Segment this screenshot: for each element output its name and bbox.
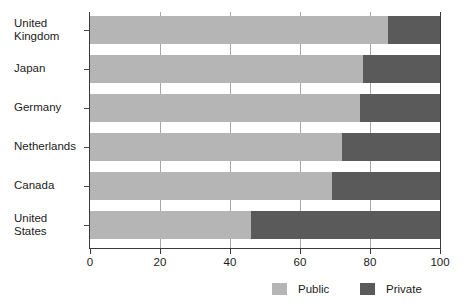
bar-segment-private — [388, 16, 441, 44]
category-label-netherlands: Netherlands — [14, 140, 82, 153]
bar-row-united-kingdom — [90, 16, 440, 44]
bar-segment-public — [90, 133, 342, 161]
bar-row-canada — [90, 172, 440, 200]
x-tick-80 — [370, 249, 371, 254]
bar-segment-private — [360, 94, 441, 122]
x-tick-40 — [230, 249, 231, 254]
bar-row-japan — [90, 55, 440, 83]
plot-right-border — [440, 12, 441, 249]
category-label-canada: Canada — [14, 179, 82, 192]
bar-segment-public — [90, 172, 332, 200]
category-label-united-states: United States — [14, 212, 82, 237]
bar-segment-public — [90, 94, 360, 122]
x-tick-0 — [90, 249, 91, 254]
bar-segment-public — [90, 55, 363, 83]
category-label-germany: Germany — [14, 101, 82, 114]
plot-area — [90, 12, 440, 248]
stacked-bar-chart: United Kingdom Japan Germany Netherlands… — [0, 0, 467, 307]
x-axis-label-0: 0 — [70, 256, 110, 268]
x-axis-label-100: 100 — [420, 256, 460, 268]
legend-item-private[interactable]: Private — [360, 281, 422, 297]
x-tick-100 — [440, 249, 441, 254]
bar-segment-private — [363, 55, 440, 83]
x-axis-label-20: 20 — [140, 256, 180, 268]
legend-label-private: Private — [386, 283, 422, 295]
category-label-united-kingdom: United Kingdom — [14, 17, 82, 42]
x-axis-line — [89, 248, 441, 249]
bar-segment-private — [342, 133, 440, 161]
legend-label-public: Public — [298, 283, 329, 295]
x-tick-60 — [300, 249, 301, 254]
x-axis-label-40: 40 — [210, 256, 250, 268]
legend-swatch-private-icon — [360, 283, 375, 295]
x-axis-label-80: 80 — [350, 256, 390, 268]
bar-row-netherlands — [90, 133, 440, 161]
category-label-japan: Japan — [14, 62, 82, 75]
bar-segment-private — [332, 172, 441, 200]
bar-segment-private — [251, 211, 440, 239]
x-axis-label-60: 60 — [280, 256, 320, 268]
bar-row-united-states — [90, 211, 440, 239]
bar-segment-public — [90, 211, 251, 239]
bar-segment-public — [90, 16, 388, 44]
bar-row-germany — [90, 94, 440, 122]
legend-swatch-public-icon — [272, 283, 287, 295]
x-tick-20 — [160, 249, 161, 254]
legend-item-public[interactable]: Public — [272, 281, 329, 297]
